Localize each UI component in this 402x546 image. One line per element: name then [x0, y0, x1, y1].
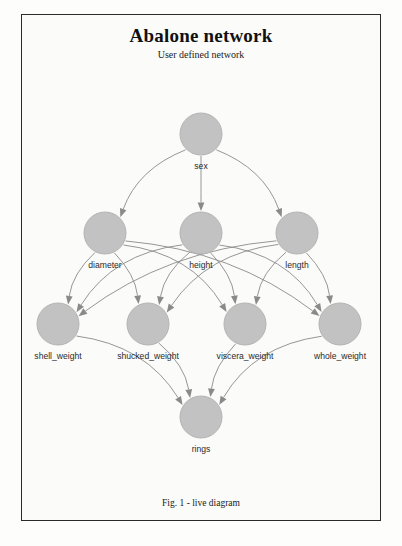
node-circle-height[interactable]	[180, 212, 222, 254]
node-label-viscera_weight: viscera_weight	[217, 351, 274, 361]
node-rings[interactable]: rings	[180, 396, 222, 454]
node-circle-whole_weight[interactable]	[319, 303, 361, 345]
node-height[interactable]: height	[180, 212, 222, 270]
node-label-length: length	[285, 260, 309, 270]
node-circle-shell_weight[interactable]	[37, 303, 79, 345]
arrowhead-shucked_weight-to-rings	[185, 389, 192, 398]
edge-height-to-shell_weight	[81, 245, 182, 305]
edge-diameter-to-shell_weight	[69, 253, 95, 296]
node-sex[interactable]: sex	[180, 113, 222, 171]
arrowhead-length-to-whole_weight	[326, 295, 333, 304]
node-label-sex: sex	[194, 161, 208, 171]
arrowhead-sex-to-height	[198, 203, 205, 212]
arrowhead-diameter-to-whole_weight	[311, 308, 320, 316]
node-label-height: height	[189, 260, 213, 270]
node-label-shell_weight: shell_weight	[34, 351, 82, 361]
node-circle-viscera_weight[interactable]	[224, 303, 266, 345]
arrowhead-diameter-to-shell_weight	[66, 296, 73, 305]
node-length[interactable]: length	[276, 212, 318, 270]
node-shell_weight[interactable]: shell_weight	[34, 303, 82, 361]
arrowhead-shell_weight-to-rings	[175, 396, 182, 405]
node-diameter[interactable]: diameter	[84, 212, 126, 270]
edge-layer	[66, 150, 333, 405]
node-whole_weight[interactable]: whole_weight	[313, 303, 367, 361]
node-label-shucked_weight: shucked_weight	[117, 351, 179, 361]
node-viscera_weight[interactable]: viscera_weight	[217, 303, 274, 361]
arrowhead-diameter-to-viscera_weight	[219, 303, 226, 312]
node-shucked_weight[interactable]: shucked_weight	[117, 303, 179, 361]
arrowhead-length-to-viscera_weight	[254, 296, 261, 305]
arrowhead-sex-to-diameter	[120, 208, 126, 217]
node-circle-rings[interactable]	[180, 396, 222, 438]
page-background: Abalone network User defined network Fig…	[0, 0, 402, 546]
edge-length-to-whole_weight	[306, 253, 329, 296]
node-circle-sex[interactable]	[180, 113, 222, 155]
node-circle-diameter[interactable]	[84, 212, 126, 254]
network-diagram-canvas: sexdiameterheightlengthshell_weightshuck…	[0, 0, 402, 546]
edge-shucked_weight-to-rings	[159, 343, 189, 389]
arrowhead-diameter-to-shucked_weight	[134, 295, 141, 304]
arrowhead-whole_weight-to-rings	[219, 396, 226, 405]
arrowhead-sex-to-length	[276, 208, 282, 217]
node-label-diameter: diameter	[88, 260, 122, 270]
edge-whole_weight-to-rings	[224, 336, 322, 397]
edge-shell_weight-to-rings	[76, 336, 178, 398]
network-diagram: sexdiameterheightlengthshell_weightshuck…	[0, 0, 402, 546]
node-circle-shucked_weight[interactable]	[127, 303, 169, 345]
arrowhead-viscera_weight-to-rings	[208, 388, 215, 397]
edge-sex-to-diameter	[123, 150, 185, 209]
arrowhead-height-to-shucked_weight	[157, 296, 164, 305]
node-circle-length[interactable]	[276, 212, 318, 254]
node-layer: sexdiameterheightlengthshell_weightshuck…	[34, 113, 366, 454]
arrowhead-length-to-shucked_weight	[167, 304, 175, 313]
arrowhead-height-to-viscera_weight	[231, 295, 238, 304]
edge-sex-to-length	[216, 150, 278, 209]
node-label-rings: rings	[192, 444, 211, 454]
node-label-whole_weight: whole_weight	[313, 351, 367, 361]
